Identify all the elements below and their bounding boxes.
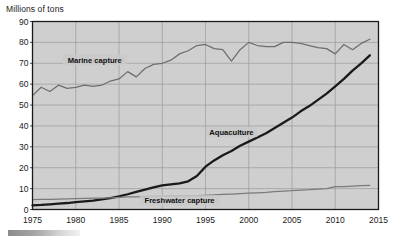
decorative-gradient-bar — [8, 230, 80, 236]
svg-text:10: 10 — [19, 184, 29, 194]
svg-text:70: 70 — [19, 58, 29, 68]
svg-text:60: 60 — [19, 79, 29, 89]
y-axis-ticks: 0102030405060708090 — [19, 17, 32, 215]
svg-text:20: 20 — [19, 163, 29, 173]
svg-text:1975: 1975 — [23, 215, 42, 225]
chart-container: Millions of tons 0102030405060708090 197… — [0, 0, 406, 244]
svg-text:Freshwater capture: Freshwater capture — [145, 196, 215, 205]
x-axis-ticks: 197519801985199019952000200520102015 — [23, 215, 388, 225]
svg-text:2005: 2005 — [283, 215, 302, 225]
line-chart: 0102030405060708090 19751980198519901995… — [0, 0, 406, 244]
svg-text:2015: 2015 — [369, 215, 388, 225]
svg-text:1980: 1980 — [66, 215, 85, 225]
svg-text:50: 50 — [19, 100, 29, 110]
svg-text:40: 40 — [19, 121, 29, 131]
svg-text:0: 0 — [24, 205, 29, 215]
svg-text:2010: 2010 — [326, 215, 345, 225]
svg-text:1985: 1985 — [110, 215, 129, 225]
svg-text:90: 90 — [19, 17, 29, 27]
svg-text:1995: 1995 — [196, 215, 215, 225]
svg-text:Marine capture: Marine capture — [68, 56, 122, 65]
svg-text:30: 30 — [19, 142, 29, 152]
svg-text:2000: 2000 — [239, 215, 258, 225]
svg-text:1990: 1990 — [153, 215, 172, 225]
svg-text:Aquaculture: Aquaculture — [209, 128, 253, 137]
svg-text:80: 80 — [19, 37, 29, 47]
